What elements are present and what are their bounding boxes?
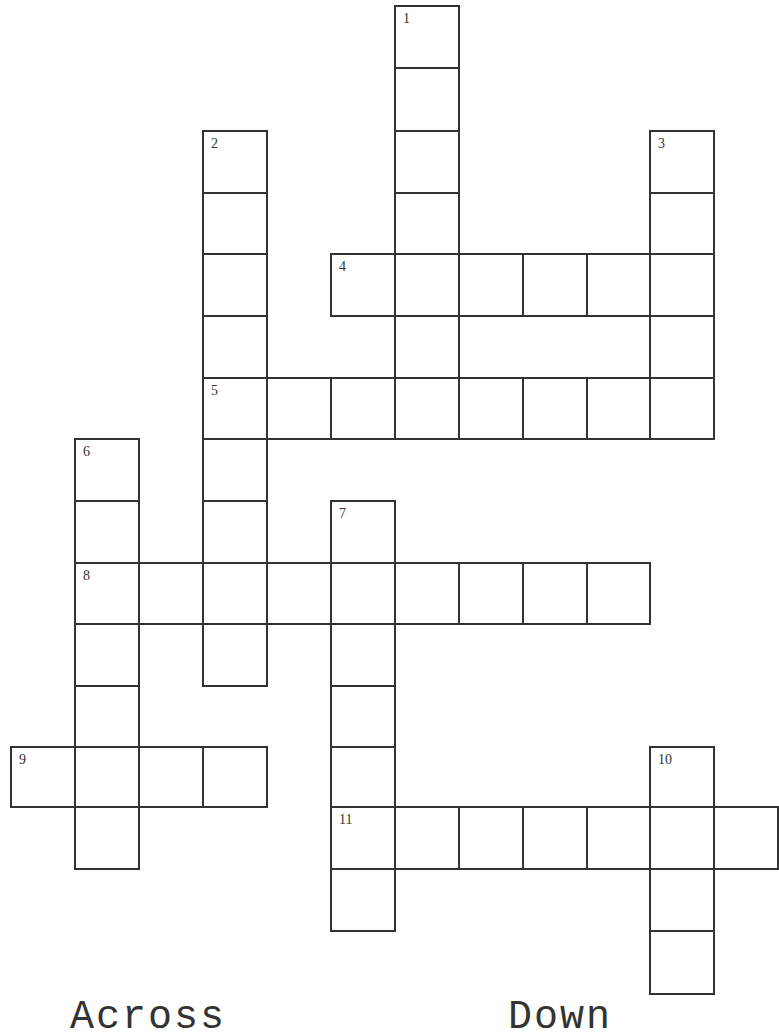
clue-number: 3 xyxy=(658,137,665,151)
crossword-cell[interactable] xyxy=(394,130,460,194)
crossword-cell[interactable] xyxy=(202,192,268,255)
crossword-cell[interactable] xyxy=(458,253,524,317)
crossword-cell[interactable] xyxy=(330,623,396,687)
crossword-cell[interactable]: 10 xyxy=(649,746,715,808)
crossword-cell[interactable]: 7 xyxy=(330,500,396,564)
crossword-cell[interactable] xyxy=(266,377,332,440)
crossword-cell[interactable] xyxy=(74,623,140,687)
clue-number: 7 xyxy=(339,507,346,521)
crossword-cell[interactable] xyxy=(330,377,396,440)
crossword-cell[interactable] xyxy=(202,438,268,502)
crossword-cell[interactable] xyxy=(522,253,588,317)
crossword-cell[interactable] xyxy=(649,930,715,995)
crossword-cell[interactable] xyxy=(586,253,651,317)
crossword-cell[interactable] xyxy=(458,377,524,440)
clue-number: 10 xyxy=(658,753,672,767)
crossword-cell[interactable] xyxy=(649,253,715,317)
crossword-cell[interactable] xyxy=(330,746,396,808)
crossword-cell[interactable] xyxy=(266,562,332,625)
clue-number: 9 xyxy=(19,753,26,767)
crossword-cell[interactable]: 6 xyxy=(74,438,140,502)
crossword-cell[interactable]: 8 xyxy=(74,562,140,625)
crossword-cell[interactable] xyxy=(202,253,268,317)
crossword-cell[interactable] xyxy=(458,806,524,870)
down-clues-heading: Down xyxy=(508,998,612,1032)
crossword-cell[interactable] xyxy=(394,253,460,317)
crossword-grid: 1253468711910 xyxy=(0,0,778,1000)
clue-number: 6 xyxy=(83,445,90,459)
crossword-cell[interactable] xyxy=(586,377,651,440)
crossword-cell[interactable] xyxy=(649,377,715,440)
crossword-cell[interactable] xyxy=(74,500,140,564)
crossword-cell[interactable] xyxy=(394,315,460,379)
crossword-cell[interactable] xyxy=(74,685,140,748)
crossword-cell[interactable] xyxy=(458,562,524,625)
crossword-cell[interactable] xyxy=(649,868,715,932)
crossword-cell[interactable] xyxy=(202,315,268,379)
crossword-cell[interactable]: 2 xyxy=(202,130,268,194)
clue-number: 4 xyxy=(339,260,346,274)
crossword-cell[interactable] xyxy=(522,806,588,870)
crossword-cell[interactable] xyxy=(586,806,651,870)
crossword-cell[interactable]: 11 xyxy=(330,806,396,870)
crossword-cell[interactable] xyxy=(649,192,715,255)
crossword-cell[interactable] xyxy=(202,562,268,625)
crossword-cell[interactable] xyxy=(330,868,396,932)
crossword-cell[interactable] xyxy=(649,315,715,379)
crossword-cell[interactable]: 4 xyxy=(330,253,396,317)
crossword-cell[interactable] xyxy=(522,377,588,440)
crossword-cell[interactable] xyxy=(138,746,204,808)
crossword-cell[interactable] xyxy=(330,562,396,625)
crossword-cell[interactable] xyxy=(394,67,460,132)
crossword-cell[interactable] xyxy=(394,562,460,625)
crossword-cell[interactable] xyxy=(330,685,396,748)
clue-number: 1 xyxy=(403,12,410,26)
clue-number: 5 xyxy=(211,384,218,398)
crossword-cell[interactable] xyxy=(394,806,460,870)
crossword-cell[interactable] xyxy=(713,806,779,870)
crossword-cell[interactable] xyxy=(649,806,715,870)
crossword-cell[interactable]: 5 xyxy=(202,377,268,440)
crossword-cell[interactable] xyxy=(586,562,651,625)
crossword-cell[interactable] xyxy=(74,806,140,870)
clue-number: 8 xyxy=(83,569,90,583)
crossword-cell[interactable] xyxy=(522,562,588,625)
crossword-cell[interactable] xyxy=(394,192,460,255)
crossword-cell[interactable] xyxy=(74,746,140,808)
across-clues-heading: Across xyxy=(70,998,226,1032)
crossword-cell[interactable] xyxy=(202,500,268,564)
clue-number: 2 xyxy=(211,137,218,151)
crossword-cell[interactable] xyxy=(138,562,204,625)
crossword-cell[interactable] xyxy=(202,746,268,808)
crossword-cell[interactable] xyxy=(394,377,460,440)
clue-number: 11 xyxy=(339,813,352,827)
crossword-cell[interactable]: 9 xyxy=(10,746,76,808)
crossword-cell[interactable] xyxy=(202,623,268,687)
crossword-cell[interactable]: 3 xyxy=(649,130,715,194)
crossword-cell[interactable]: 1 xyxy=(394,5,460,69)
